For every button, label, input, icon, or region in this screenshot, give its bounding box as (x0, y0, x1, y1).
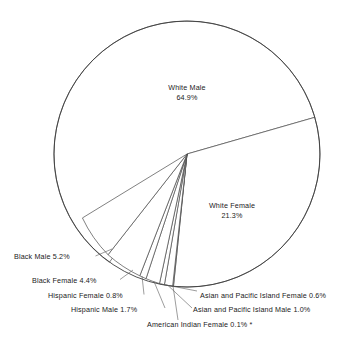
label-asian-pacific-island-female: Asian and Pacific Island Female 0.6% (200, 291, 327, 300)
leader-hispanic-male (154, 282, 165, 309)
label-black-male: Black Male 5.2% (14, 252, 70, 261)
label-white-female-value: 21.3% (221, 211, 243, 220)
label-hispanic-female: Hispanic Female 0.8% (48, 291, 123, 300)
pie-chart-svg: White Male 64.9% White Female 21.3% Blac… (0, 0, 356, 347)
label-white-female-name: White Female (209, 201, 255, 210)
pie-chart-figure: White Male 64.9% White Female 21.3% Blac… (0, 0, 356, 347)
label-black-female: Black Female 4.4% (32, 276, 97, 285)
leader-hispanic-female (142, 276, 144, 295)
pie-slices (54, 21, 320, 287)
label-asian-pacific-island-male: Asian and Pacific Island Male 1.0% (193, 305, 311, 314)
leader-asian-pacific-male (168, 286, 192, 309)
label-american-indian-female: American Indian Female 0.1% * (147, 320, 252, 329)
label-white-male-name: White Male (168, 83, 205, 92)
label-hispanic-male: Hispanic Male 1.7% (71, 305, 138, 314)
label-white-male-value: 64.9% (176, 93, 198, 102)
